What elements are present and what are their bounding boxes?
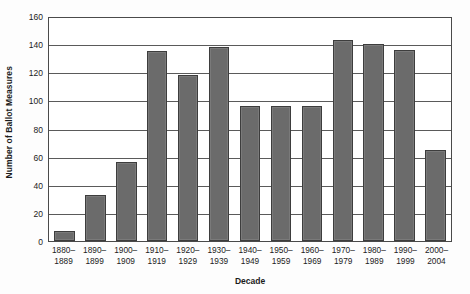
bars-container: [49, 18, 451, 241]
x-axis-tick-label: 1980– 1989: [359, 245, 390, 275]
x-axis-tick-label: 1900– 1909: [110, 245, 141, 275]
y-axis-tick-120: 120: [29, 69, 43, 78]
bar[interactable]: [54, 231, 74, 241]
bar[interactable]: [116, 162, 136, 241]
x-axis-tick-label: 1970– 1979: [328, 245, 359, 275]
x-axis-tick-labels: 1880– 18891890– 18991900– 19091910– 1919…: [48, 245, 452, 275]
y-axis-tick-40: 40: [34, 182, 43, 191]
bar[interactable]: [333, 40, 353, 241]
y-axis-tick-labels: 020406080100120140160: [18, 0, 46, 294]
y-axis-tick-60: 60: [34, 153, 43, 162]
y-axis-tick-0: 0: [38, 238, 43, 247]
y-axis-title: Number of Ballot Measures: [0, 0, 18, 245]
bar-slot: [420, 18, 451, 241]
bar[interactable]: [147, 51, 167, 241]
bar-slot: [142, 18, 173, 241]
x-axis-tick-label: 1890– 1899: [79, 245, 110, 275]
plot-area: [48, 17, 452, 242]
bar-slot: [296, 18, 327, 241]
x-axis-tick-label: 1930– 1939: [203, 245, 234, 275]
bar[interactable]: [209, 47, 229, 241]
x-axis-tick-label: 1940– 1949: [234, 245, 265, 275]
y-axis-tick-20: 20: [34, 210, 43, 219]
bar[interactable]: [85, 195, 105, 241]
bar-slot: [80, 18, 111, 241]
x-axis-tick-label: 1910– 1919: [141, 245, 172, 275]
bar-slot: [49, 18, 80, 241]
bar[interactable]: [271, 106, 291, 241]
x-axis-tick-label: 1990– 1999: [390, 245, 421, 275]
y-axis-tick-160: 160: [29, 13, 43, 22]
y-axis-tick-80: 80: [34, 125, 43, 134]
bar-slot: [111, 18, 142, 241]
bar-slot: [389, 18, 420, 241]
bar-slot: [235, 18, 266, 241]
bar[interactable]: [178, 75, 198, 241]
bar[interactable]: [363, 44, 383, 241]
bar-slot: [265, 18, 296, 241]
bar-slot: [327, 18, 358, 241]
ballot-measures-bar-chart: Number of Ballot Measures 02040608010012…: [0, 0, 470, 294]
y-axis-title-label: Number of Ballot Measures: [4, 66, 14, 179]
x-axis-title: Decade: [48, 276, 452, 286]
x-axis-tick-label: 1950– 1959: [266, 245, 297, 275]
bar[interactable]: [302, 106, 322, 241]
y-axis-tick-100: 100: [29, 97, 43, 106]
x-axis-tick-label: 1960– 1969: [297, 245, 328, 275]
bar-slot: [204, 18, 235, 241]
bar-slot: [173, 18, 204, 241]
y-axis-tick-140: 140: [29, 41, 43, 50]
bar-slot: [358, 18, 389, 241]
x-axis-tick-label: 1920– 1929: [172, 245, 203, 275]
x-axis-tick-label: 2000– 2004: [421, 245, 452, 275]
bar[interactable]: [240, 106, 260, 241]
bar[interactable]: [394, 50, 414, 241]
bar[interactable]: [425, 150, 445, 241]
x-axis-tick-label: 1880– 1889: [48, 245, 79, 275]
